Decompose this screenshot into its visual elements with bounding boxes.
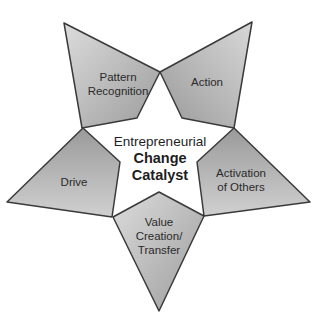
label-line: Transfer <box>138 244 180 256</box>
label-line: Activation <box>216 167 266 179</box>
label-activation-of-others: Activation of Others <box>216 166 266 194</box>
label-drive: Drive <box>61 175 88 189</box>
label-action: Action <box>191 75 223 89</box>
center-line-1: Entrepreneurial <box>114 133 206 150</box>
label-line: Creation/ <box>136 230 183 242</box>
label-line: Drive <box>61 176 88 188</box>
label-pattern-recognition: Pattern Recognition <box>88 70 149 98</box>
center-line-2: Change <box>114 150 206 167</box>
center-line-3: Catalyst <box>114 167 206 184</box>
label-line: Action <box>191 76 223 88</box>
center-title: Entrepreneurial Change Catalyst <box>114 133 206 184</box>
label-line: of Others <box>217 181 264 193</box>
label-line: Pattern <box>99 71 136 83</box>
segment-drive <box>7 128 120 217</box>
label-line: Recognition <box>88 85 149 97</box>
label-value-creation-transfer: Value Creation/ Transfer <box>136 215 183 257</box>
label-line: Value <box>145 216 174 228</box>
